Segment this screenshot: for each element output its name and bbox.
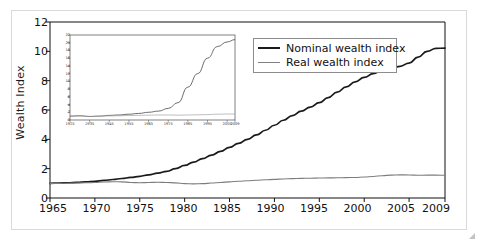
inset-x-tick-label: 1965 xyxy=(144,122,153,126)
inset-y-tick-label: 20 xyxy=(65,41,70,45)
inset-x-tick-label: 2009 xyxy=(230,122,239,126)
inset-y-tick-label: 10 xyxy=(65,79,70,83)
inset-x-tick-label: 1935 xyxy=(85,122,94,126)
inset-chart xyxy=(68,35,236,123)
inset-y-tick-label: 22 xyxy=(65,33,70,37)
inset-y-tick-label: 8 xyxy=(68,87,70,91)
inset-x-tick-label: 1955 xyxy=(124,122,133,126)
inset-x-tick-label: 1985 xyxy=(183,122,192,126)
legend-line-icon-nominal xyxy=(258,47,280,49)
inset-y-axis-tick-labels: 0246810121416182022 xyxy=(56,33,70,121)
legend-item-nominal: Nominal wealth index xyxy=(258,41,392,55)
inset-x-tick-label: 1945 xyxy=(105,122,114,126)
inset-y-tick-label: 2 xyxy=(68,110,70,114)
chart-plot-area: Wealth Index 12 10 8 6 4 2 0 1965 1970 1… xyxy=(0,0,481,243)
inset-y-tick-label: 4 xyxy=(68,103,70,107)
inset-y-tick-label: 18 xyxy=(65,48,70,52)
inset-y-tick-label: 12 xyxy=(65,72,70,76)
chart-legend: Nominal wealth index Real wealth index xyxy=(253,38,397,73)
inset-x-tick-label: 1925 xyxy=(65,122,74,126)
inset-x-tick-label: 1975 xyxy=(164,122,173,126)
inset-y-tick-label: 6 xyxy=(68,95,70,99)
inset-x-tick-label: 1995 xyxy=(203,122,212,126)
figure-container: Wealth Index 12 10 8 6 4 2 0 1965 1970 1… xyxy=(0,0,481,243)
legend-line-icon-real xyxy=(258,62,280,63)
inset-y-tick-label: 14 xyxy=(65,64,70,68)
legend-item-real: Real wealth index xyxy=(258,55,392,69)
legend-label-real: Real wealth index xyxy=(286,56,384,69)
inset-x-axis-tick-labels: 1925193519451955196519751985199520052009 xyxy=(0,122,481,130)
legend-label-nominal: Nominal wealth index xyxy=(286,42,405,55)
inset-y-tick-label: 16 xyxy=(65,56,70,60)
